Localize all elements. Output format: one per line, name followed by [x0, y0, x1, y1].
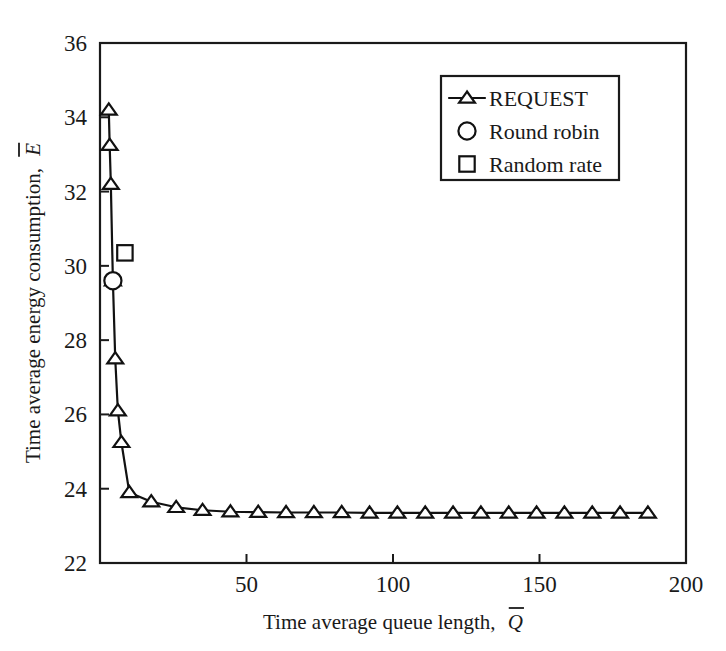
legend-label: REQUEST	[489, 86, 589, 111]
data-point-triangle	[121, 486, 137, 497]
data-point-triangle	[113, 436, 129, 447]
x-axis-ticks	[247, 554, 687, 563]
y-tick-label: 28	[64, 328, 87, 353]
svg-text:Time average energy consumptio: Time average energy consumption, E	[21, 143, 45, 463]
legend-label: Round robin	[489, 119, 600, 144]
y-axis-tick-labels: 2224262830323436	[64, 31, 88, 576]
chart-figure: 50100150200 2224262830323436 Time averag…	[0, 0, 726, 651]
x-axis-title: Time average queue length, Q	[263, 608, 524, 634]
x-tick-label: 100	[376, 572, 411, 597]
x-axis-title-symbol: Q	[508, 610, 523, 634]
legend-marker-circle	[458, 122, 475, 139]
y-axis-ticks	[100, 117, 109, 488]
data-point-triangle	[101, 103, 117, 114]
y-tick-label: 36	[64, 31, 87, 56]
chart-legend[interactable]: REQUESTRound robinRandom rate	[441, 76, 619, 180]
series-random-rate	[117, 245, 132, 260]
data-point-triangle	[107, 352, 123, 363]
y-tick-label: 30	[64, 254, 87, 279]
y-tick-label: 26	[64, 402, 87, 427]
data-point-triangle	[102, 139, 118, 150]
data-point-triangle	[143, 495, 159, 506]
data-point-circle	[104, 272, 121, 289]
y-tick-label: 32	[64, 180, 87, 205]
svg-text:Time average queue length,: Time average queue length, Q	[263, 610, 523, 634]
data-point-triangle	[103, 178, 119, 189]
y-axis-title: Time average energy consumption, E	[19, 143, 45, 463]
data-point-triangle	[110, 404, 126, 415]
series-round-robin	[104, 272, 121, 289]
x-tick-label: 150	[522, 572, 557, 597]
chart-canvas: 50100150200 2224262830323436 Time averag…	[0, 0, 726, 651]
legend-items: REQUESTRound robinRandom rate	[449, 86, 602, 177]
y-tick-label: 34	[64, 105, 88, 130]
y-axis-title-symbol: E	[21, 143, 45, 157]
x-tick-label: 50	[235, 572, 258, 597]
x-tick-label: 200	[669, 572, 704, 597]
x-axis-tick-labels: 50100150200	[235, 572, 703, 597]
y-tick-label: 24	[64, 477, 88, 502]
data-point-square	[117, 245, 132, 260]
legend-label: Random rate	[489, 152, 602, 177]
y-tick-label: 22	[64, 551, 87, 576]
legend-marker-square	[459, 156, 474, 171]
x-axis-title-text: Time average queue length,	[263, 610, 496, 634]
y-axis-title-text: Time average energy consumption,	[21, 168, 45, 463]
